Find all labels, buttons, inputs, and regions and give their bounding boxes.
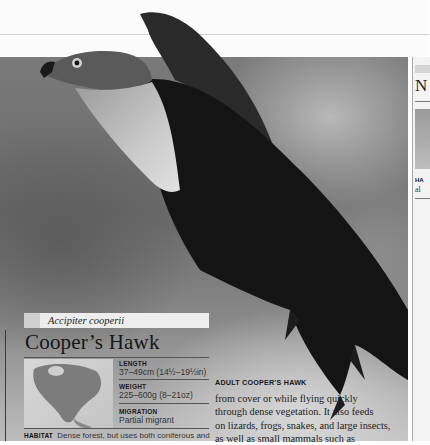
adjacent-rule <box>415 198 430 199</box>
adjacent-page-heading: N <box>415 77 427 95</box>
adjacent-latin-bar <box>415 65 430 73</box>
adjacent-page: N HA al <box>412 57 430 441</box>
adjacent-rule <box>415 101 430 102</box>
photo-caption: ADULT COOPER’S HAWK <box>215 378 307 387</box>
title-rule <box>24 357 209 358</box>
migration-value: Partial migrant <box>119 415 174 425</box>
weight-label: WEIGHT <box>119 383 146 390</box>
habitat-text: HABITAT Dense forest, but uses both coni… <box>24 431 224 440</box>
page-column-rule <box>5 330 6 441</box>
species-title: Cooper’s Hawk <box>25 329 160 355</box>
adjacent-habitat-text: al <box>415 185 421 194</box>
body-line: through dense vegetation. It also feeds <box>215 405 415 418</box>
stat-divider <box>119 379 209 380</box>
body-line: on lizards, frogs, snakes, and large ins… <box>215 419 415 432</box>
stat-divider <box>119 403 209 404</box>
latin-name: Accipiter cooperii <box>48 313 124 328</box>
habitat-description: Dense forest, but uses both coniferous a… <box>57 431 210 440</box>
body-line: as well as small mammals such as <box>215 432 415 445</box>
species-info-card: Accipiter cooperii Cooper’s Hawk LENGTH … <box>24 313 209 441</box>
habitat-label: HABITAT <box>24 432 53 439</box>
migration-label: MIGRATION <box>119 408 158 415</box>
body-line: from cover or while flying quickly <box>215 392 415 405</box>
range-map <box>24 359 113 429</box>
adjacent-habitat-label: HA <box>415 177 424 183</box>
length-value: 37–49cm (14½–19½in) <box>119 367 206 377</box>
card-bottom-rule <box>24 428 209 429</box>
weight-value: 225–600g (8–21oz) <box>119 390 193 400</box>
adjacent-map <box>415 109 430 169</box>
range-map-icon <box>24 359 113 429</box>
body-paragraph: from cover or while flying quickly throu… <box>215 392 415 445</box>
length-label: LENGTH <box>119 360 147 367</box>
